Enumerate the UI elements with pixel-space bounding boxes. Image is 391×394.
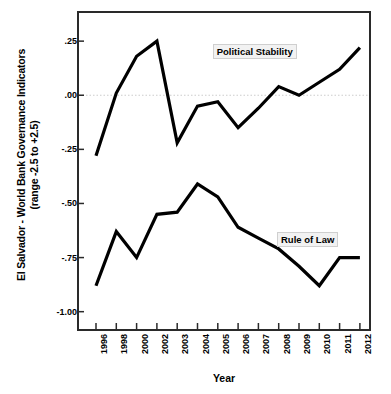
x-tick-label: 2011 [344,334,353,354]
x-tick-label: 1998 [120,334,129,354]
y-tick-label: -.50 [43,199,77,208]
series-label-rule-of-law: Rule of Law [277,232,338,247]
chart-figure: El Salvador - World Bank Governance Indi… [0,0,391,394]
y-tick-label: -1.00 [43,308,77,317]
y-axis-title-line1: El Salvador - World Bank Governance Indi… [15,49,27,281]
y-tick-label: .25 [43,37,77,46]
x-tick-label: 2004 [202,334,211,354]
series-label-political-stability: Political Stability [213,44,297,59]
y-tick-label: -.25 [43,145,77,154]
plot-lines [79,13,369,329]
x-axis-title: Year [77,372,371,384]
x-tick-label: 1996 [100,334,109,354]
x-tick-label: 2010 [323,334,332,354]
plot-area [77,11,371,331]
x-tick-label: 2000 [141,334,150,354]
x-tick-label: 2012 [364,334,373,354]
y-tick-label: .00 [43,91,77,100]
y-tick-label: -.75 [43,254,77,263]
x-tick-label: 2002 [161,334,170,354]
x-tick-label: 2008 [283,334,292,354]
x-tick-label: 2005 [222,334,231,354]
x-tick-label: 2007 [262,334,271,354]
x-tick-label: 2009 [303,334,312,354]
x-tick-label: 2003 [181,334,190,354]
x-tick-label: 2006 [242,334,251,354]
